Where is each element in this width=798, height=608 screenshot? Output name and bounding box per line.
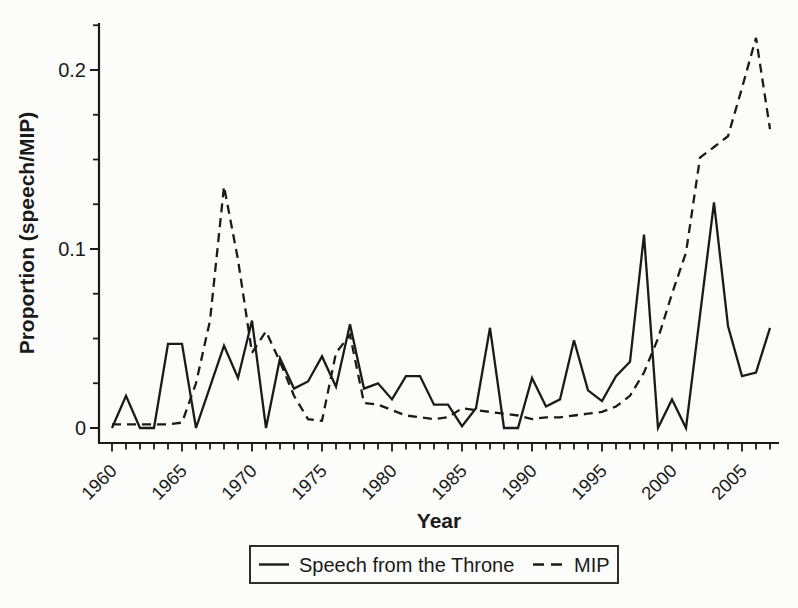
legend-label-mip: MIP xyxy=(574,554,610,576)
y-axis-ticks: 00.10.2 xyxy=(58,25,99,439)
x-tick-label: 2005 xyxy=(707,460,751,504)
x-axis-ticks: 1960196519701975198019851990199520002005 xyxy=(77,443,770,504)
x-tick-label: 1975 xyxy=(287,460,331,504)
legend: Speech from the Throne MIP xyxy=(250,546,618,583)
x-tick-label: 1995 xyxy=(567,460,611,504)
line-chart: 00.10.2196019651970197519801985199019952… xyxy=(0,0,798,608)
legend-label-speech: Speech from the Throne xyxy=(299,554,514,576)
x-tick-label: 1985 xyxy=(427,460,471,504)
y-tick-label: 0.2 xyxy=(58,59,86,81)
plot-area: 00.10.2196019651970197519801985199019952… xyxy=(58,23,779,504)
figure-page: 00.10.2196019651970197519801985199019952… xyxy=(0,0,798,608)
x-tick-label: 1960 xyxy=(77,460,121,504)
y-tick-label: 0.1 xyxy=(58,238,86,260)
y-tick-label: 0 xyxy=(75,417,86,439)
x-tick-label: 1965 xyxy=(147,460,191,504)
y-axis-title: Proportion (speech/MIP) xyxy=(15,112,38,355)
x-tick-label: 2000 xyxy=(637,460,681,504)
x-tick-label: 1970 xyxy=(217,460,261,504)
x-axis-title: Year xyxy=(417,509,461,532)
mip-line xyxy=(112,38,770,425)
x-tick-label: 1990 xyxy=(497,460,541,504)
x-tick-label: 1980 xyxy=(357,460,401,504)
